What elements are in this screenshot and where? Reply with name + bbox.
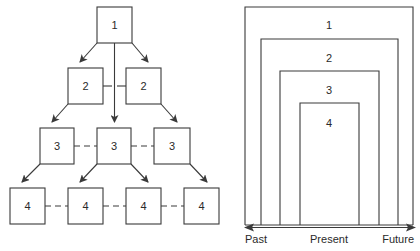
tree-node-level4-b: 4 [68,188,103,224]
tree-node-level2-right: 2 [126,68,161,104]
nested-label-1: 1 [326,19,332,31]
node-label: 2 [82,80,88,92]
arrow-3-to-4-a [22,164,40,182]
arrow-3-to-4-c [131,164,148,182]
tree-node-level2-left: 2 [68,68,103,104]
label-present: Present [310,233,348,245]
nested-label-2: 2 [326,52,332,64]
node-label: 3 [169,140,175,152]
diagram-canvas: 1 2 2 3 3 3 4 4 [0,0,420,251]
node-label: 4 [24,200,30,212]
arrow-3-to-4-b [80,164,97,182]
nested-label-4: 4 [326,117,332,129]
label-future: Future [382,233,414,245]
label-past: Past [245,233,267,245]
node-label: 4 [140,200,146,212]
tree-node-level3-b: 3 [97,128,131,164]
arrow-2-to-3-left [52,104,68,122]
nested-diagram: 1 2 3 4 Past Present Future [244,7,416,245]
tree-node-level4-d: 4 [184,188,219,224]
nested-label-3: 3 [326,84,332,96]
arrow-1-to-2-left [80,43,97,62]
node-label: 4 [198,200,204,212]
arrow-2-to-3-right [161,104,177,122]
tree-node-level3-c: 3 [154,128,190,164]
node-label: 3 [111,140,117,152]
node-label: 4 [82,200,88,212]
nested-rect-2 [261,39,398,225]
arrow-3-to-4-d [190,164,207,182]
nested-rect-1 [245,7,413,225]
tree-node-level3-a: 3 [40,128,74,164]
arrow-1-to-2-right [132,43,148,62]
tree-node-level4-a: 4 [10,188,45,224]
tree-node-level1: 1 [97,7,132,43]
node-label: 1 [111,19,117,31]
node-label: 2 [140,80,146,92]
node-label: 3 [54,140,60,152]
tree-node-level4-c: 4 [126,188,161,224]
tree-diagram: 1 2 2 3 3 3 4 4 [10,7,219,224]
